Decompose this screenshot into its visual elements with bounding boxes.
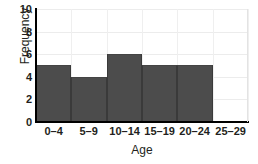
- x-axis-line: [35, 121, 249, 123]
- y-axis-tick-labels: 0246810: [12, 8, 32, 122]
- x-tick-label: 25–29: [213, 125, 248, 138]
- bar: [107, 54, 142, 122]
- plot-right-border: [247, 9, 248, 122]
- bar: [71, 77, 107, 122]
- gridline: [213, 9, 214, 122]
- x-axis-title: Age: [36, 143, 248, 157]
- gridline: [248, 9, 249, 122]
- bar: [142, 65, 177, 122]
- x-tick-label: 20–24: [177, 125, 212, 138]
- x-tick-label: 5–9: [71, 125, 106, 138]
- x-tick-label: 10–14: [107, 125, 142, 138]
- x-tick-label: 15–19: [142, 125, 177, 138]
- y-axis-line: [35, 8, 37, 123]
- histogram-figure: Frequency 0246810 0–45–910–1415–1920–242…: [0, 0, 258, 164]
- y-tick-label: 0: [12, 117, 32, 127]
- plot-area: [36, 9, 248, 122]
- x-tick-label: 0–4: [36, 125, 71, 138]
- y-tick-label: 8: [12, 27, 32, 37]
- bar: [36, 65, 71, 122]
- y-tick-label: 10: [12, 4, 32, 14]
- y-tick-label: 6: [12, 49, 32, 59]
- y-tick-label: 2: [12, 94, 32, 104]
- bar: [177, 65, 213, 122]
- y-tick-label: 4: [12, 72, 32, 82]
- x-axis-tick-labels: 0–45–910–1415–1920–2425–29: [36, 125, 248, 139]
